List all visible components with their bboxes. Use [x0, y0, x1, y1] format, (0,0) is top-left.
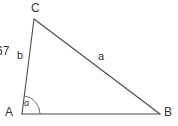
- side-a-line: [34, 19, 160, 114]
- angle-label-alpha: α: [24, 99, 29, 108]
- vertex-label-b: B: [164, 106, 172, 118]
- triangle-diagram: C A B b a α 67: [0, 0, 178, 126]
- side-label-a: a: [98, 51, 104, 62]
- side-label-b: b: [17, 50, 23, 61]
- vertex-label-a: A: [5, 106, 13, 118]
- clipped-edge-value: 67: [0, 45, 9, 57]
- vertex-label-c: C: [31, 2, 40, 14]
